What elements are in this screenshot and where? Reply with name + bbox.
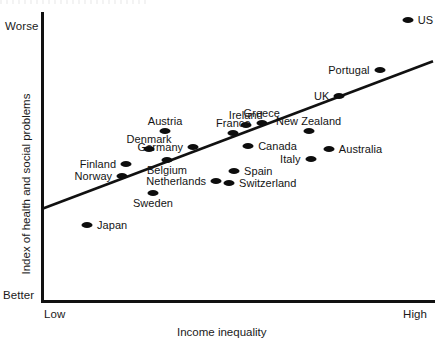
data-point-label: Sweden — [133, 197, 173, 209]
data-point — [228, 130, 239, 136]
data-point — [240, 122, 251, 128]
data-point-label: Italy — [280, 153, 300, 165]
data-point — [162, 157, 173, 163]
data-point-label: Australia — [339, 143, 382, 155]
data-point-label: Netherlands — [146, 175, 206, 187]
data-point — [334, 93, 345, 99]
data-point-label: Ireland — [229, 109, 263, 121]
data-point — [243, 143, 254, 149]
scatter-chart: Worse Better Low High Income inequality … — [0, 0, 444, 340]
data-point — [256, 120, 267, 126]
data-point — [117, 173, 128, 179]
data-point-label: Japan — [97, 219, 127, 231]
data-point-label: Belgium — [147, 164, 187, 176]
data-point — [82, 222, 93, 228]
y-axis-tick-better: Better — [3, 289, 34, 301]
data-point-label: Germany — [138, 141, 184, 153]
x-axis-tick-low: Low — [44, 308, 65, 320]
data-point-label: Austria — [148, 115, 183, 127]
y-axis-tick-worse: Worse — [5, 20, 39, 32]
y-axis-line — [41, 12, 44, 303]
data-point-label: Greece — [244, 107, 280, 119]
data-point-label: Denmark — [127, 133, 172, 145]
x-axis-tick-high: High — [403, 308, 427, 320]
data-point-label: Canada — [258, 140, 297, 152]
data-point-label: US — [418, 14, 433, 26]
data-point-label: Finland — [80, 158, 116, 170]
data-point — [160, 128, 171, 134]
data-point — [224, 180, 235, 186]
data-point-label: Spain — [244, 165, 272, 177]
data-point — [323, 146, 334, 152]
plot-area: USPortugalUKGreeceIrelandNew ZealandFran… — [0, 0, 444, 340]
data-point-label: New Zealand — [276, 115, 341, 127]
data-point-label: UK — [314, 90, 329, 102]
data-point — [121, 161, 132, 167]
y-axis-title: Index of health and social problems — [20, 84, 32, 284]
data-point-label: Portugal — [328, 64, 369, 76]
data-point — [211, 178, 222, 184]
data-point-label: Norway — [75, 170, 113, 182]
trend-line — [0, 0, 444, 340]
data-point — [303, 128, 314, 134]
data-point — [402, 17, 413, 23]
data-point — [374, 67, 385, 73]
data-point — [147, 190, 158, 196]
data-point — [144, 146, 155, 152]
scan-artifact — [0, 0, 150, 4]
x-axis-line — [41, 300, 435, 303]
data-point-label: France — [216, 117, 251, 129]
data-point-label: Switzerland — [239, 177, 296, 189]
data-point — [188, 144, 199, 150]
data-point — [229, 168, 240, 174]
data-point — [305, 156, 316, 162]
x-axis-title: Income inequality — [177, 326, 267, 338]
